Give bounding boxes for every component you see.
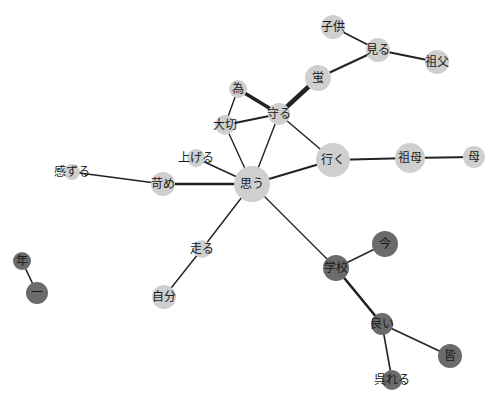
nodes-layer — [13, 15, 485, 390]
node-label-sofu: 祖父 — [425, 54, 449, 69]
node-label-iku: 行く — [321, 153, 345, 167]
node-label-gakkou: 学校 — [324, 260, 348, 275]
node-label-miru: 見る — [366, 43, 390, 57]
node-label-tame: 為 — [232, 82, 244, 96]
node-label-ima: 今 — [379, 236, 391, 251]
node-label-toshi: 年 — [16, 254, 28, 268]
node-label-mina: 皆 — [444, 349, 456, 363]
network-graph-canvas: 子供見る祖父蛍為守る大切上げる行く祖母母感ずる苛め思う走る自分年一今学校良い皆呉… — [0, 0, 497, 401]
edges-layer — [22, 27, 474, 380]
node-label-omou: 思う — [240, 177, 264, 191]
node-label-jibun: 自分 — [152, 290, 176, 304]
node-label-ijime: 苛め — [151, 177, 175, 191]
node-label-mamoru: 守る — [267, 107, 291, 121]
node-label-kodomo: 子供 — [321, 20, 345, 34]
labels-layer: 子供見る祖父蛍為守る大切上げる行く祖母母感ずる苛め思う走る自分年一今学校良い皆呉… — [16, 20, 480, 387]
network-diagram: 子供見る祖父蛍為守る大切上げる行く祖母母感ずる苛め思う走る自分年一今学校良い皆呉… — [0, 0, 497, 401]
node-label-sobo: 祖母 — [398, 150, 422, 165]
node-label-taisetsu: 大切 — [213, 118, 237, 132]
node-label-yoi: 良い — [370, 316, 394, 331]
node-label-hashiru: 走る — [190, 242, 214, 256]
node-label-kureru: 呉れる — [374, 373, 410, 387]
node-label-ichi: 一 — [31, 286, 43, 300]
node-label-haha: 母 — [468, 150, 480, 164]
node-label-hotaru: 蛍 — [312, 71, 324, 85]
node-label-kanzuru: 感ずる — [54, 164, 90, 179]
node-label-ageru: 上げる — [178, 151, 214, 165]
